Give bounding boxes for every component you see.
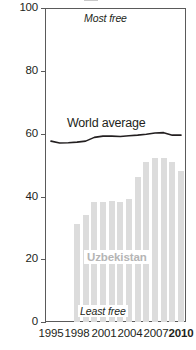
x-axis-label-1995: 1995 bbox=[39, 327, 64, 339]
series-label-uzbekistan: Uzbekistan bbox=[84, 250, 150, 264]
x-axis-label-2010: 2010 bbox=[169, 327, 194, 339]
freedom-index-chart: 100 80 60 40 20 0 Most free Least free W… bbox=[0, 0, 196, 350]
series-label-world-average: World average bbox=[64, 116, 148, 130]
x-axis-label-2007: 2007 bbox=[144, 327, 169, 339]
x-axis-label-1998: 1998 bbox=[65, 327, 90, 339]
annotation-most-free: Most free bbox=[84, 12, 127, 24]
x-axis-label-2001: 2001 bbox=[92, 327, 117, 339]
annotation-least-free: Least free bbox=[78, 305, 128, 317]
line-series-world-average bbox=[0, 0, 196, 350]
x-axis-label-2004: 2004 bbox=[118, 327, 143, 339]
